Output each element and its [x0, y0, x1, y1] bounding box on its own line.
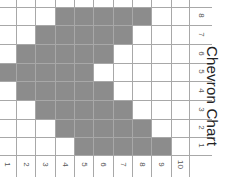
column-label: 4: [60, 157, 69, 173]
grid-vline: [113, 0, 114, 177]
row-label: 8: [197, 8, 206, 24]
chevron-chart: 12345678910 87654321 Chevron Chart: [0, 0, 228, 177]
cell-r4-c2: [16, 81, 35, 100]
cell-r3-c8: [132, 100, 151, 119]
cell-r8-c5: [74, 7, 93, 25]
cell-r7-c2: [16, 25, 35, 44]
cell-r4-c10: [171, 81, 189, 100]
cell-r4-c4: [55, 81, 74, 100]
cell-r3-c2: [16, 100, 35, 119]
cell-r1-c8: [132, 137, 151, 155]
grid-vline: [74, 0, 75, 177]
cell-r6-c1: [0, 44, 16, 63]
grid-hline: [0, 119, 212, 120]
cell-r2-c3: [35, 119, 55, 137]
cell-r7-c5: [74, 25, 93, 44]
grid-vline: [189, 0, 190, 177]
cell-r5-c5: [74, 63, 93, 81]
cell-r4-c1: [0, 81, 16, 100]
column-label: 10: [176, 157, 185, 173]
cell-r7-c10: [171, 25, 189, 44]
cell-r6-c5: [74, 44, 93, 63]
grid-vline: [171, 0, 172, 177]
cell-r3-c1: [0, 100, 16, 119]
cell-r7-c9: [151, 25, 171, 44]
cell-r6-c9: [151, 44, 171, 63]
cell-r1-c10: [171, 137, 189, 155]
column-label: 7: [118, 157, 127, 173]
grid-vline: [132, 0, 133, 177]
cell-r4-c9: [151, 81, 171, 100]
grid-hline: [0, 100, 212, 101]
cell-r5-c10: [171, 63, 189, 81]
cell-r1-c4: [55, 137, 74, 155]
column-label: 3: [41, 157, 50, 173]
cell-r8-c2: [16, 7, 35, 25]
cell-r5-c2: [16, 63, 35, 81]
cell-r3-c5: [74, 100, 93, 119]
cell-r1-c2: [16, 137, 35, 155]
cell-r4-c5: [74, 81, 93, 100]
cell-r2-c6: [93, 119, 113, 137]
cell-r1-c6: [93, 137, 113, 155]
cell-r5-c6: [93, 63, 113, 81]
row-label: 7: [197, 26, 206, 42]
cell-r3-c4: [55, 100, 74, 119]
cell-r2-c1: [0, 119, 16, 137]
cell-r8-c9: [151, 7, 171, 25]
cell-r1-c7: [113, 137, 132, 155]
cell-r5-c1: [0, 63, 16, 81]
column-label: 1: [2, 157, 11, 173]
column-label: 5: [79, 157, 88, 173]
cell-r6-c4: [55, 44, 74, 63]
cell-r7-c7: [113, 25, 132, 44]
grid-vline: [16, 0, 17, 177]
grid-hline: [0, 137, 212, 138]
grid-hline: [0, 81, 212, 82]
cell-r7-c1: [0, 25, 16, 44]
cell-r8-c3: [35, 7, 55, 25]
cell-r7-c4: [55, 25, 74, 44]
grid-vline: [93, 0, 94, 177]
cell-r6-c6: [93, 44, 113, 63]
cell-r6-c2: [16, 44, 35, 63]
cell-r8-c1: [0, 7, 16, 25]
cell-r5-c7: [113, 63, 132, 81]
cell-r5-c4: [55, 63, 74, 81]
chart-title: Chevron Chart: [204, 46, 221, 146]
cell-r2-c4: [55, 119, 74, 137]
cell-r8-c7: [113, 7, 132, 25]
cell-r6-c8: [132, 44, 151, 63]
column-label: 8: [137, 157, 146, 173]
cell-r2-c2: [16, 119, 35, 137]
cell-r8-c10: [171, 7, 189, 25]
cell-r6-c7: [113, 44, 132, 63]
cell-r3-c3: [35, 100, 55, 119]
cell-r1-c9: [151, 137, 171, 155]
cell-r5-c8: [132, 63, 151, 81]
cell-r3-c9: [151, 100, 171, 119]
cell-r1-c1: [0, 137, 16, 155]
cell-r8-c6: [93, 7, 113, 25]
cell-r2-c9: [151, 119, 171, 137]
grid-hline: [0, 44, 212, 45]
cell-r3-c10: [171, 100, 189, 119]
grid-hline: [0, 25, 212, 26]
cell-r1-c5: [74, 137, 93, 155]
cell-r1-c3: [35, 137, 55, 155]
cell-r4-c3: [35, 81, 55, 100]
cell-r5-c9: [151, 63, 171, 81]
cell-r6-c3: [35, 44, 55, 63]
grid-vline: [35, 0, 36, 177]
cell-r4-c6: [93, 81, 113, 100]
cell-r4-c7: [113, 81, 132, 100]
cell-r8-c4: [55, 7, 74, 25]
cell-r2-c5: [74, 119, 93, 137]
cell-r7-c6: [93, 25, 113, 44]
grid-hline: [0, 63, 212, 64]
column-label: 9: [157, 157, 166, 173]
cell-r2-c8: [132, 119, 151, 137]
cell-r3-c6: [93, 100, 113, 119]
cell-r2-c10: [171, 119, 189, 137]
cell-r3-c7: [113, 100, 132, 119]
